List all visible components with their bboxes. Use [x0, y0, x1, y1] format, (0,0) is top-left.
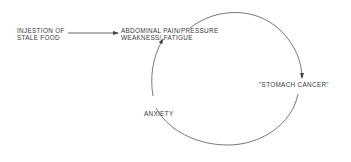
node-belief-label: "STOMACH CANCER"	[259, 81, 329, 88]
node-trigger-line1: INJESTION OF	[17, 27, 65, 34]
symptoms-to-belief-arc	[190, 13, 302, 79]
node-trigger-line2: STALE FOOD	[17, 34, 65, 41]
node-symptoms-line2: WEAKNESS/ FATIGUE	[121, 34, 218, 41]
anxiety-to-symptoms-arc	[152, 39, 163, 96]
node-belief: "STOMACH CANCER"	[259, 81, 329, 88]
node-anxiety-label: ANXIETY	[144, 110, 173, 117]
node-symptoms-line1: ABDOMINAL PAIN/PRESSURE	[121, 27, 218, 34]
node-trigger: INJESTION OF STALE FOOD	[17, 27, 65, 41]
node-symptoms: ABDOMINAL PAIN/PRESSURE WEAKNESS/ FATIGU…	[121, 27, 218, 41]
node-anxiety: ANXIETY	[144, 110, 173, 117]
belief-to-anxiety-arc	[156, 94, 298, 145]
vicious-cycle-diagram: INJESTION OF STALE FOOD ABDOMINAL PAIN/P…	[0, 0, 351, 162]
